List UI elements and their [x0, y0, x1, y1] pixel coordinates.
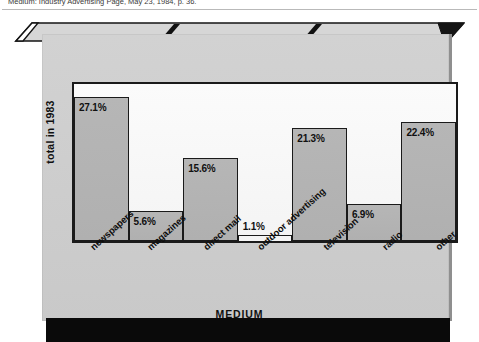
x-axis-tick-labels: newspapers magazines direct mail outdoor…	[72, 244, 458, 306]
chart-3d-slab: 27.1% 5.6% 15.6% 1.1% 21.3%	[14, 20, 465, 334]
bar-cell-other[interactable]: 22.4%	[401, 84, 456, 241]
bar-value-direct-mail: 15.6%	[188, 163, 215, 174]
bar-value-other: 22.4%	[406, 127, 433, 138]
source-caption: Medium: Industry Advertising Page, May 2…	[8, 0, 468, 7]
bar-other[interactable]: 22.4%	[401, 122, 456, 241]
bar-value-television: 21.3%	[297, 133, 324, 144]
slab-base-shadow	[46, 318, 450, 342]
bar-value-newspapers: 27.1%	[79, 102, 106, 113]
bar-value-outdoor-advertising: 1.1%	[243, 221, 265, 232]
bar-value-magazines: 5.6%	[134, 216, 156, 227]
header-divider	[2, 9, 477, 10]
y-axis-label: total in 1983	[44, 100, 56, 163]
